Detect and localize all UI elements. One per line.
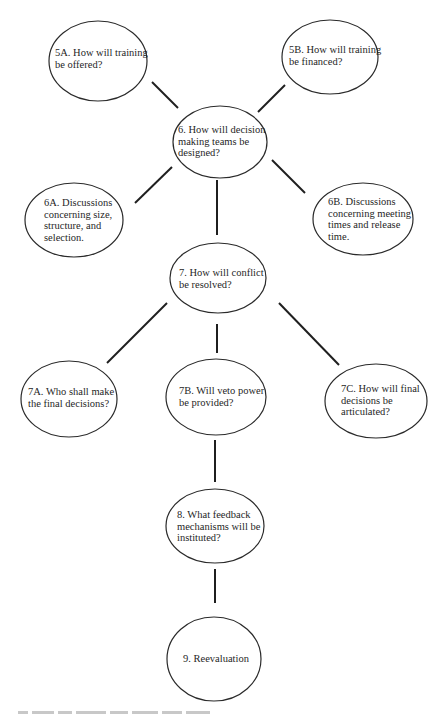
node-9-label: 9. Reevaluation bbox=[183, 653, 249, 665]
connector-6-to-6a bbox=[135, 167, 172, 203]
label-line: 5B. How will training bbox=[289, 44, 381, 56]
label-line: 7. How will conflict bbox=[179, 267, 264, 279]
node-7-label: 7. How will conflictbe resolved? bbox=[179, 267, 264, 290]
label-line: decisions be bbox=[341, 395, 420, 407]
label-line: be financed? bbox=[289, 56, 381, 68]
label-line: 5A. How will training bbox=[55, 47, 148, 59]
node-7a-label: 7A. Who shall makethe final decisions? bbox=[28, 386, 114, 409]
node-7c-label: 7C. How will finaldecisions bearticulate… bbox=[341, 383, 420, 418]
label-line: be resolved? bbox=[179, 279, 264, 291]
node-8-label: 8. What feedbackmechanisms will beinstit… bbox=[177, 509, 260, 544]
label-line: concerning size, bbox=[44, 209, 112, 221]
connector-6-to-6b bbox=[272, 160, 305, 193]
label-line: making teams be bbox=[178, 136, 266, 148]
label-line: the final decisions? bbox=[28, 398, 114, 410]
label-line: 9. Reevaluation bbox=[183, 653, 249, 665]
label-line: selection. bbox=[44, 232, 112, 244]
caption-glyph-fragment bbox=[186, 711, 210, 714]
label-line: 8. What feedback bbox=[177, 509, 260, 521]
label-line: instituted? bbox=[177, 532, 260, 544]
label-line: times and release bbox=[328, 219, 411, 231]
label-line: concerning meeting bbox=[328, 208, 411, 220]
label-line: 7A. Who shall make bbox=[28, 386, 114, 398]
connector-5a-to-6 bbox=[152, 82, 178, 108]
label-line: 6. How will decision bbox=[178, 124, 266, 136]
node-6a-label: 6A. Discussionsconcerning size,structure… bbox=[44, 197, 112, 243]
figure-caption-cut-off bbox=[18, 711, 238, 715]
node-5a-label: 5A. How will trainingbe offered? bbox=[55, 47, 148, 70]
node-ellipses bbox=[21, 20, 427, 701]
label-line: be offered? bbox=[55, 59, 148, 71]
node-6-label: 6. How will decisionmaking teams bedesig… bbox=[178, 124, 266, 159]
label-line: 6A. Discussions bbox=[44, 197, 112, 209]
node-6b-label: 6B. Discussionsconcerning meetingtimes a… bbox=[328, 196, 411, 242]
label-line: structure, and bbox=[44, 220, 112, 232]
caption-glyph-fragment bbox=[32, 711, 54, 714]
label-line: articulated? bbox=[341, 406, 420, 418]
caption-glyph-fragment bbox=[18, 711, 28, 714]
label-line: 7B. Will veto power bbox=[179, 385, 264, 397]
label-line: designed? bbox=[178, 147, 266, 159]
caption-glyph-fragment bbox=[76, 711, 106, 714]
flow-diagram bbox=[0, 0, 447, 715]
caption-glyph-fragment bbox=[110, 711, 128, 714]
label-line: 6B. Discussions bbox=[328, 196, 411, 208]
label-line: 7C. How will final bbox=[341, 383, 420, 395]
caption-glyph-fragment bbox=[58, 711, 72, 714]
connector-7-to-7a bbox=[107, 303, 167, 363]
connector-5b-to-6 bbox=[258, 85, 285, 112]
node-7b-label: 7B. Will veto powerbe provided? bbox=[179, 385, 264, 408]
connector-7-to-7c bbox=[279, 303, 339, 365]
label-line: mechanisms will be bbox=[177, 521, 260, 533]
node-5b-label: 5B. How will trainingbe financed? bbox=[289, 44, 381, 67]
label-line: time. bbox=[328, 231, 411, 243]
caption-glyph-fragment bbox=[132, 711, 158, 714]
label-line: be provided? bbox=[179, 397, 264, 409]
caption-glyph-fragment bbox=[162, 711, 182, 714]
